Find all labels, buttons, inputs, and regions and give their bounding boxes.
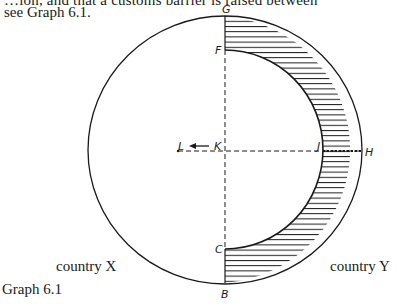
label-b: B bbox=[221, 288, 229, 301]
figure-caption: Graph 6.1 bbox=[2, 281, 62, 298]
label-c: C bbox=[215, 243, 223, 256]
label-l: L bbox=[178, 140, 184, 153]
arrow-left-icon bbox=[189, 143, 209, 149]
label-country-y: country Y bbox=[330, 258, 390, 275]
hatched-region bbox=[225, 16, 350, 283]
label-f: F bbox=[215, 44, 222, 57]
label-h: H bbox=[365, 146, 373, 159]
label-k: K bbox=[214, 140, 222, 153]
label-g: G bbox=[222, 3, 231, 16]
label-country-x: country X bbox=[56, 258, 116, 275]
